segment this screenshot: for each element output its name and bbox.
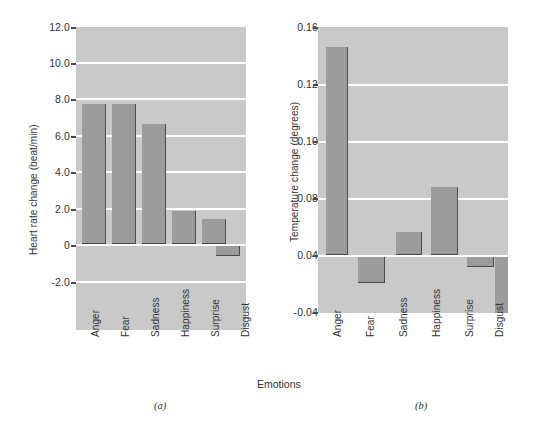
panel-b-bar-surprise (467, 257, 494, 267)
panel-b-y-axis-label: Temperature change (degrees) (289, 102, 300, 242)
panel-a-plot-area (76, 27, 246, 330)
panel-b-bar-anger (326, 47, 348, 255)
panel-a-bar-disgust (216, 246, 240, 256)
panel-a-xtick-surprise: Surprise (210, 299, 221, 337)
panel-a-ytick-2: 2.0 (34, 203, 70, 215)
panel-a-xtick-fear: Fear (120, 316, 131, 337)
panel-a-xtick-happiness: Happiness (180, 289, 191, 337)
panel-a-ytick-8: 8.0 (34, 93, 70, 105)
panel-b-plot-area (318, 27, 508, 313)
panel-b-xtick-disgust: Disgust (494, 303, 505, 337)
panel-a-ytick-neg2: -2.0 (34, 276, 70, 288)
panel-b-xtick-sadness: Sadness (398, 297, 409, 337)
panel-b-caption: (b) (415, 400, 427, 411)
panel-a-xtick-disgust: Disgust (240, 303, 251, 337)
panel-a-bar-surprise (202, 219, 226, 244)
panel-a-bar-fear (112, 104, 136, 244)
panel-a: Heart rate change (beat/min) 12.0 10.0 8… (0, 0, 270, 436)
panel-b: Temperature change (degrees) 0.16 0.12 0… (270, 0, 540, 436)
panel-a-bar-sadness (142, 124, 166, 244)
panel-b-bar-fear (358, 257, 385, 283)
panel-b-xtick-happiness: Happiness (431, 289, 442, 337)
panel-a-ytick-6: 6.0 (34, 130, 70, 142)
panel-a-y-axis-label: Heart rate change (beat/min) (28, 124, 39, 255)
panel-a-xtick-sadness: Sadness (150, 297, 161, 337)
panel-a-xtick-anger: Anger (90, 310, 101, 337)
panel-b-xtick-anger: Anger (332, 310, 343, 337)
panel-a-ytick-4: 4.0 (34, 166, 70, 178)
panel-a-ytick-10: 10.0 (34, 57, 70, 69)
panel-b-ytick-neg004: -0.04 (278, 306, 318, 318)
panel-a-gridline-10 (76, 62, 246, 64)
panel-b-bar-happiness (431, 187, 458, 255)
panel-a-ytick-0: 0 (34, 239, 70, 251)
panel-b-xtick-surprise: Surprise (464, 299, 475, 337)
figure-x-axis-label: Emotions (257, 378, 301, 390)
panel-b-xtick-fear: Fear (365, 316, 376, 337)
panel-a-bar-anger (82, 104, 106, 244)
panel-a-caption: (a) (154, 400, 166, 411)
panel-b-bar-sadness (396, 232, 422, 255)
panel-a-gridline-8 (76, 98, 246, 100)
figure-two-panel-bar-charts: Heart rate change (beat/min) 12.0 10.0 8… (0, 0, 540, 436)
panel-a-ytick-12: 12.0 (34, 21, 70, 33)
panel-a-gridline-neg2 (76, 281, 246, 283)
panel-a-bar-happiness (172, 211, 196, 244)
